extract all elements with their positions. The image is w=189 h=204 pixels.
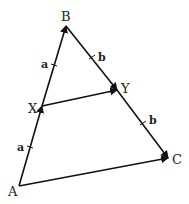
label-segment-by: b bbox=[98, 51, 106, 64]
label-segment-xb: a bbox=[41, 58, 48, 71]
vector-ac bbox=[19, 158, 168, 186]
label-segment-yc: b bbox=[149, 114, 157, 127]
triangle-diagram: a a b b B Y X C A bbox=[0, 0, 189, 204]
label-point-y: Y bbox=[120, 81, 130, 96]
label-point-b: B bbox=[61, 9, 71, 24]
vector-xy bbox=[42, 90, 117, 106]
label-point-x: X bbox=[28, 101, 38, 116]
vector-by bbox=[66, 26, 117, 90]
label-point-a: A bbox=[7, 184, 18, 199]
vector-yc bbox=[117, 90, 168, 158]
label-point-c: C bbox=[172, 152, 182, 167]
label-segment-ax: a bbox=[17, 141, 24, 154]
